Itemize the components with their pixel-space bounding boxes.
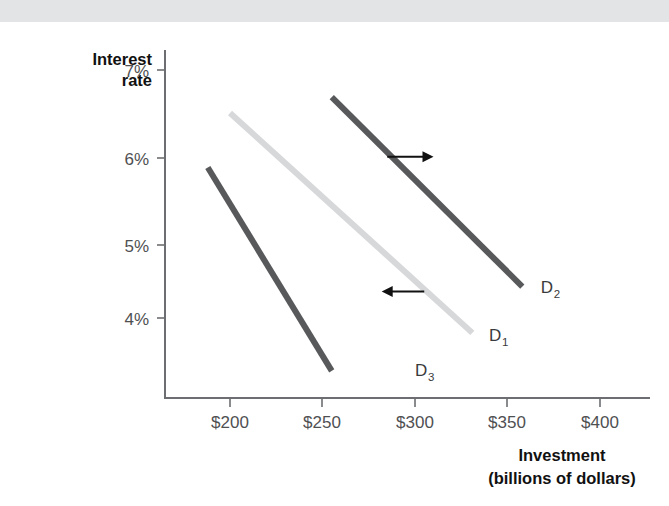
investment-demand-chart: Interest rate 7% 6% 5% 4% $200 $250 $300… — [0, 0, 669, 506]
curve-label-d1-subscript: 1 — [502, 336, 508, 348]
curve-label-d2-subscript: 2 — [554, 288, 560, 300]
x-tick-label-200: $200 — [211, 413, 249, 432]
curve-label-d1-group: D 1 — [489, 326, 508, 348]
curve-label-d3-group: D 3 — [415, 361, 434, 383]
shift-left-arrow-icon — [382, 286, 425, 297]
y-tick-label-6: 6% — [124, 150, 149, 169]
curve-label-d2: D — [541, 278, 553, 297]
x-axis-title: Investment — [518, 446, 606, 464]
y-tick-label-7: 7% — [124, 62, 149, 81]
demand-curve-d2 — [332, 97, 523, 286]
y-tick-label-4: 4% — [124, 310, 149, 329]
demand-curve-d1 — [230, 113, 472, 333]
x-tick-label-400: $400 — [581, 413, 619, 432]
x-tick-label-350: $350 — [488, 413, 526, 432]
curve-label-d2-group: D 2 — [541, 278, 560, 300]
curve-label-d1: D — [489, 326, 501, 345]
axis-lines — [165, 50, 650, 398]
curve-label-d3: D — [415, 361, 427, 380]
y-tick-label-5: 5% — [124, 237, 149, 256]
chart-canvas: Interest rate 7% 6% 5% 4% $200 $250 $300… — [0, 0, 669, 506]
x-tick-label-250: $250 — [303, 413, 341, 432]
curve-label-d3-subscript: 3 — [428, 371, 434, 383]
demand-curve-d3 — [208, 167, 332, 370]
x-tick-label-300: $300 — [396, 413, 434, 432]
x-axis-subtitle: (billions of dollars) — [488, 469, 636, 487]
